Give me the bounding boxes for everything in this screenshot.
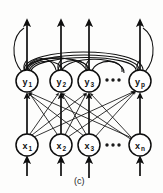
- node-yp-subscript: p: [141, 81, 145, 89]
- node-y3[interactable]: y 3: [78, 70, 100, 92]
- recurrent-self-loop-y1: [14, 28, 24, 72]
- node-x2-base: x: [57, 141, 62, 151]
- input-to-output-connections: [27, 92, 140, 140]
- neural-network-figure: y 1 y 2 y 3 y p: [0, 0, 163, 193]
- edge-x3-y1: [29, 94, 84, 136]
- node-xn[interactable]: x n: [129, 134, 151, 156]
- node-xn-subscript: n: [141, 145, 145, 152]
- recurrent-arc-y3-yp: [92, 61, 122, 72]
- node-x1-base: x: [23, 141, 28, 151]
- output-layer-ellipsis: [105, 78, 120, 81]
- node-y3-subscript: 3: [91, 81, 95, 88]
- node-x2-subscript: 2: [63, 145, 67, 152]
- node-y2-subscript: 2: [63, 81, 67, 88]
- edge-xn-y3: [91, 94, 131, 137]
- output-layer-nodes: y 1 y 2 y 3 y p: [16, 70, 151, 92]
- network-diagram-canvas: y 1 y 2 y 3 y p: [0, 0, 163, 193]
- input-layer-ellipsis: [105, 143, 120, 146]
- node-x2[interactable]: x 2: [50, 134, 72, 156]
- node-y3-base: y: [85, 77, 90, 87]
- node-x1[interactable]: x 1: [16, 134, 38, 156]
- node-yp-base: y: [135, 77, 140, 87]
- figure-caption: (c): [74, 176, 85, 186]
- node-xn-base: x: [135, 141, 140, 151]
- node-y1-subscript: 1: [29, 81, 33, 88]
- node-x3-base: x: [85, 141, 90, 151]
- node-x1-subscript: 1: [29, 145, 33, 152]
- node-x3[interactable]: x 3: [78, 134, 100, 156]
- node-x3-subscript: 3: [91, 145, 95, 152]
- node-y1[interactable]: y 1: [16, 70, 38, 92]
- node-yp[interactable]: y p: [129, 70, 151, 92]
- recurrent-arcs-group: [14, 28, 153, 73]
- edge-x1-y3: [32, 94, 85, 135]
- node-y1-base: y: [23, 77, 28, 87]
- recurrent-self-loop-yp: [143, 28, 153, 72]
- node-y2[interactable]: y 2: [50, 70, 72, 92]
- node-y2-base: y: [57, 77, 62, 87]
